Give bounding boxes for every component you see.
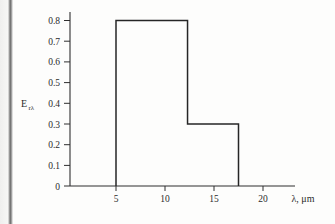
y-tick-label-7: 0.1	[48, 161, 60, 171]
step-function-curve	[116, 21, 239, 187]
y-axis-title-subscript: rλ	[29, 104, 35, 112]
x-axis-title: λ, μm	[292, 193, 315, 204]
x-axis-ticks	[116, 186, 263, 191]
y-tick-label-0: 0.8	[48, 16, 60, 26]
y-axis-title-main: E	[21, 98, 27, 109]
y-axis-ticks	[64, 21, 70, 187]
y-tick-label-2: 0.6	[48, 57, 60, 67]
y-tick-label-4: 0.4	[48, 99, 60, 109]
y-tick-label-8: 0	[55, 182, 60, 192]
y-tick-label-1: 0.7	[48, 37, 60, 47]
x-tick-label-2: 15	[209, 194, 219, 204]
y-tick-label-6: 0.2	[48, 140, 60, 150]
spectral-emissivity-figure: 0.8 0.7 0.6 0.5 0.4 0.3 0.2 0.1 0 E rλ 5…	[0, 0, 335, 224]
y-axis-title: E rλ	[21, 98, 35, 112]
x-tick-label-0: 5	[114, 194, 119, 204]
x-tick-label-1: 10	[160, 194, 170, 204]
x-tick-label-3: 20	[258, 194, 268, 204]
y-tick-label-5: 0.3	[48, 120, 60, 130]
y-tick-label-3: 0.5	[48, 78, 60, 88]
step-chart: 0.8 0.7 0.6 0.5 0.4 0.3 0.2 0.1 0 E rλ 5…	[0, 0, 335, 224]
